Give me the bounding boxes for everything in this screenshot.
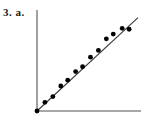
- figure-container: 3. a.: [0, 0, 148, 122]
- data-point: [50, 94, 55, 99]
- data-point: [127, 27, 132, 32]
- data-point: [111, 32, 116, 37]
- data-point: [43, 100, 48, 105]
- data-point: [120, 26, 125, 31]
- data-point: [96, 48, 101, 53]
- data-point: [88, 55, 93, 60]
- data-point: [104, 36, 109, 41]
- data-point: [35, 109, 40, 114]
- scatter-plot: [0, 0, 148, 122]
- data-point: [80, 64, 85, 69]
- data-point: [73, 69, 78, 74]
- data-point: [58, 84, 63, 89]
- data-point: [65, 78, 70, 83]
